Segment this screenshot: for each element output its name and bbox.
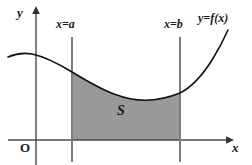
region-s-label: S — [117, 104, 125, 118]
function-curve-label: y=f(x) — [198, 12, 228, 24]
x-equals-a-label: x=a — [56, 18, 75, 30]
y-axis-arrowhead — [32, 6, 40, 14]
y-axis-label: y — [17, 6, 23, 19]
function-curve — [8, 30, 228, 100]
x-axis-label: x — [232, 141, 239, 154]
integral-area-figure: y x O x=a x=b y=f(x) S — [0, 0, 252, 165]
x-equals-b-label: x=b — [164, 18, 183, 30]
origin-label: O — [20, 141, 30, 154]
